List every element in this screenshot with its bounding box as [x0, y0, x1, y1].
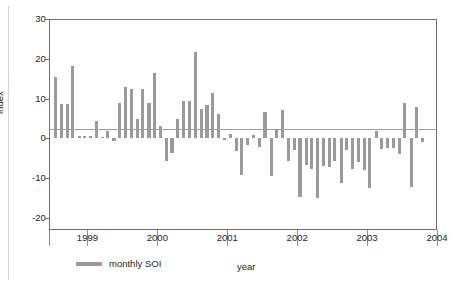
bar — [351, 138, 354, 169]
bar — [176, 119, 179, 139]
y-tick-label: 30 — [0, 14, 46, 24]
bar — [392, 138, 395, 148]
bar — [240, 138, 243, 175]
bar — [159, 126, 162, 139]
x-tick-mark — [49, 230, 50, 246]
y-tick-label: 0 — [0, 133, 46, 143]
bar — [357, 138, 360, 162]
bar — [368, 138, 371, 187]
bar — [147, 103, 150, 139]
bar — [95, 121, 98, 139]
bar — [217, 114, 220, 139]
x-tick-label: 2004 — [407, 232, 455, 244]
bar — [60, 104, 63, 138]
bar — [153, 73, 156, 138]
bar — [333, 138, 336, 161]
bar — [287, 138, 290, 160]
bar — [211, 93, 214, 138]
bar — [293, 138, 296, 149]
bar — [398, 138, 401, 154]
bar — [258, 138, 261, 146]
chart-legend: monthly SOI — [76, 258, 161, 269]
bar — [182, 101, 185, 138]
x-tick-label: 2002 — [267, 232, 327, 244]
bar — [270, 138, 273, 175]
bar — [89, 136, 92, 139]
bar — [363, 138, 366, 169]
bar — [310, 138, 313, 169]
bar — [200, 109, 203, 138]
bar — [194, 52, 197, 139]
bar — [386, 138, 389, 147]
bar — [130, 89, 133, 139]
bar — [328, 138, 331, 167]
bar — [188, 101, 191, 138]
bar — [235, 138, 238, 151]
bar — [170, 138, 173, 153]
bar — [136, 119, 139, 138]
bar — [281, 110, 284, 139]
bar — [380, 138, 383, 148]
bar — [252, 135, 255, 139]
bar — [345, 138, 348, 149]
bar — [229, 134, 232, 139]
bar — [421, 138, 424, 142]
bar — [141, 89, 144, 138]
bar — [83, 136, 86, 138]
x-tick-label: 1999 — [57, 232, 117, 244]
y-tick-label: 10 — [0, 94, 46, 104]
bar — [305, 138, 308, 165]
bar — [223, 138, 226, 140]
bar — [322, 138, 325, 165]
bar — [375, 131, 378, 139]
bar — [340, 138, 343, 182]
y-tick-label: 20 — [0, 54, 46, 64]
y-tick-label: -20 — [0, 213, 46, 223]
bar — [71, 66, 74, 138]
bar — [112, 138, 115, 140]
bar — [106, 131, 109, 138]
y-tick-label: -10 — [0, 173, 46, 183]
bar-series-monthly-soi — [49, 19, 437, 230]
bar — [118, 103, 121, 139]
bar — [124, 87, 127, 138]
chart-figure: index 3020100-10-20 19992000200120022003… — [0, 0, 455, 288]
bar — [165, 138, 168, 160]
bar — [275, 130, 278, 138]
x-tick-label: 2000 — [127, 232, 187, 244]
legend-swatch-monthly-soi — [76, 262, 102, 266]
x-tick-label: 2001 — [197, 232, 257, 244]
bar — [101, 137, 104, 139]
x-tick-label: 2003 — [337, 232, 397, 244]
bar — [205, 105, 208, 139]
legend-label-monthly-soi: monthly SOI — [109, 258, 161, 269]
bar — [246, 138, 249, 145]
bar — [66, 104, 69, 139]
bar — [316, 138, 319, 197]
bar — [403, 103, 406, 139]
bar — [54, 77, 57, 138]
bar — [410, 138, 413, 186]
bar — [78, 136, 81, 138]
x-axis-title: year — [237, 261, 255, 272]
bar — [415, 107, 418, 139]
bar — [263, 112, 266, 138]
bar — [298, 138, 301, 197]
